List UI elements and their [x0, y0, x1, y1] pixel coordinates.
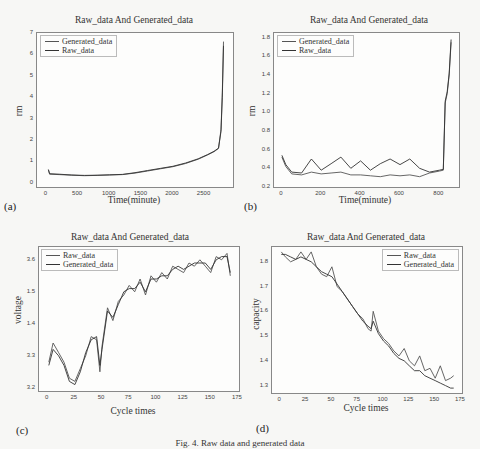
y-tick-label: 0 — [30, 179, 36, 185]
y-axis-label: rm — [247, 106, 257, 117]
x-axis-label: Time(minute) — [108, 195, 160, 205]
x-tick-label: 0 — [279, 187, 282, 196]
y-tick-label: 1.4 — [260, 357, 271, 363]
x-tick-label: 125 — [403, 393, 413, 402]
legend: Generated_data Raw_data — [40, 35, 117, 57]
plot-area: Raw_data Generated_data — [271, 246, 463, 394]
x-tick-label: 600 — [394, 187, 404, 196]
x-tick-label: 50 — [98, 391, 105, 400]
x-tick-label: 50 — [328, 393, 335, 402]
y-tick-label: 1.4 — [27, 320, 38, 326]
y-tick-label: 1.4 — [262, 71, 273, 77]
x-tick-label: 75 — [125, 391, 132, 400]
y-tick-label: 0.6 — [262, 146, 273, 152]
x-tick-label: 500 — [72, 187, 82, 196]
x-tick-label: 125 — [178, 391, 188, 400]
legend-item: Generated_data — [45, 37, 112, 46]
y-tick-label: 1.3 — [260, 382, 271, 388]
y-tick-label: 1 — [30, 157, 36, 163]
y-tick-label: 1.6 — [262, 52, 273, 58]
x-tick-label: 100 — [150, 391, 160, 400]
panel-label: (c) — [16, 424, 28, 436]
y-tick-label: 0.8 — [262, 127, 273, 133]
y-tick-label: 1.5 — [27, 288, 38, 294]
x-tick-label: 150 — [205, 391, 215, 400]
y-tick-label: 3.2 — [27, 384, 38, 390]
x-tick-label: 2500 — [197, 187, 210, 196]
figure-caption: Fig. 4. Raw data and generated data — [176, 438, 305, 448]
y-tick-label: 1.8 — [260, 258, 271, 264]
legend-item: Generated_data — [282, 37, 349, 46]
chart-title: Raw_data And Generated_data — [75, 15, 193, 25]
y-tick-label: 5 — [30, 72, 36, 78]
x-tick-label: 25 — [302, 393, 309, 402]
y-tick-label: 2 — [30, 136, 36, 142]
series-line — [281, 252, 453, 381]
series-line — [48, 46, 223, 176]
y-tick-label: 0.2 — [262, 183, 273, 189]
series-line — [49, 257, 231, 385]
y-tick-label: 1.8 — [262, 34, 273, 40]
x-tick-label: 100 — [378, 393, 388, 402]
x-axis-label: Cycle times — [343, 403, 388, 413]
x-tick-label: 800 — [433, 187, 443, 196]
y-tick-label: 0.4 — [262, 164, 273, 170]
legend: Raw_data Generated_data — [382, 249, 459, 271]
y-tick-label: 3 — [30, 115, 36, 121]
x-tick-label: 200 — [315, 187, 325, 196]
y-tick-label: 1.7 — [260, 283, 271, 289]
plot-area: Generated_data Raw_data — [36, 32, 234, 188]
legend: Raw_data Generated_data — [41, 249, 118, 271]
series-line — [282, 40, 451, 174]
x-tick-label: 175 — [455, 393, 465, 402]
series-line — [49, 253, 231, 381]
legend-item: Raw_data — [45, 46, 112, 55]
y-tick-label: 1.6 — [260, 307, 271, 313]
panel-c: Raw_data And Generated_data Raw_data Gen… — [0, 220, 240, 449]
chart-title: Raw_data And Generated_data — [71, 232, 189, 242]
panel-label: (d) — [256, 422, 269, 434]
y-tick-label: 1.0 — [262, 108, 273, 114]
y-tick-label: 3.6 — [27, 256, 38, 262]
y-axis-label: capacity — [251, 298, 261, 330]
plot-area: Generated_data Raw_data — [273, 32, 460, 188]
x-tick-label: 2000 — [165, 187, 178, 196]
legend-item: Raw_data — [387, 251, 454, 260]
legend: Generated_data Raw_data — [277, 35, 354, 57]
y-tick-label: 1.5 — [260, 332, 271, 338]
legend-item: Generated_data — [46, 260, 113, 269]
y-tick-label: 3.3 — [27, 352, 38, 358]
legend-item: Raw_data — [282, 46, 349, 55]
y-tick-label: 1.2 — [262, 90, 273, 96]
x-axis-label: Cycle times — [110, 406, 155, 416]
chart-title: Raw_data And Generated_data — [310, 15, 428, 25]
panel-d: Raw_data And Generated_data Raw_data Gen… — [240, 220, 480, 449]
series-line — [48, 42, 223, 176]
legend-item: Generated_data — [387, 260, 454, 269]
x-tick-label: 25 — [71, 391, 78, 400]
y-axis-label: rm — [14, 106, 24, 117]
panel-b: Raw_data And Generated_data Generated_da… — [240, 0, 480, 220]
x-tick-label: 0 — [278, 393, 281, 402]
series-line — [281, 254, 453, 388]
x-tick-label: 75 — [353, 393, 360, 402]
plot-area: Raw_data Generated_data — [38, 246, 240, 392]
y-tick-label: 4 — [30, 93, 36, 99]
x-tick-label: 0 — [44, 187, 47, 196]
x-tick-label: 150 — [429, 393, 439, 402]
panel-a: Raw_data And Generated_data Generated_da… — [0, 0, 240, 220]
x-axis-label: Time(minute) — [339, 195, 391, 205]
chart-title: Raw_data And Generated_data — [307, 232, 425, 242]
x-tick-label: 0 — [45, 391, 48, 400]
series-line — [282, 42, 451, 176]
legend-item: Raw_data — [46, 251, 113, 260]
y-axis-label: voltage — [13, 296, 23, 324]
panel-label: (a) — [4, 200, 16, 212]
y-tick-label: 6 — [30, 50, 36, 56]
y-tick-label: 7 — [30, 29, 36, 35]
panel-label: (b) — [244, 200, 257, 212]
